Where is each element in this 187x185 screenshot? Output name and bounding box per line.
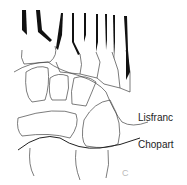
metatarsal-1-base	[21, 46, 55, 64]
metatarsal-shafts	[22, 10, 130, 80]
lisfranc-label: Lisfranc	[138, 112, 173, 123]
navicular	[18, 111, 78, 138]
foot-bones-diagram	[0, 0, 187, 185]
chopart-joint-line	[18, 137, 140, 151]
cuboid	[82, 100, 119, 148]
medial-cuneiform	[26, 67, 49, 102]
intermediate-cuneiform	[49, 74, 68, 100]
panel-letter: C	[122, 168, 129, 178]
chopart-label: Chopart	[138, 139, 174, 150]
